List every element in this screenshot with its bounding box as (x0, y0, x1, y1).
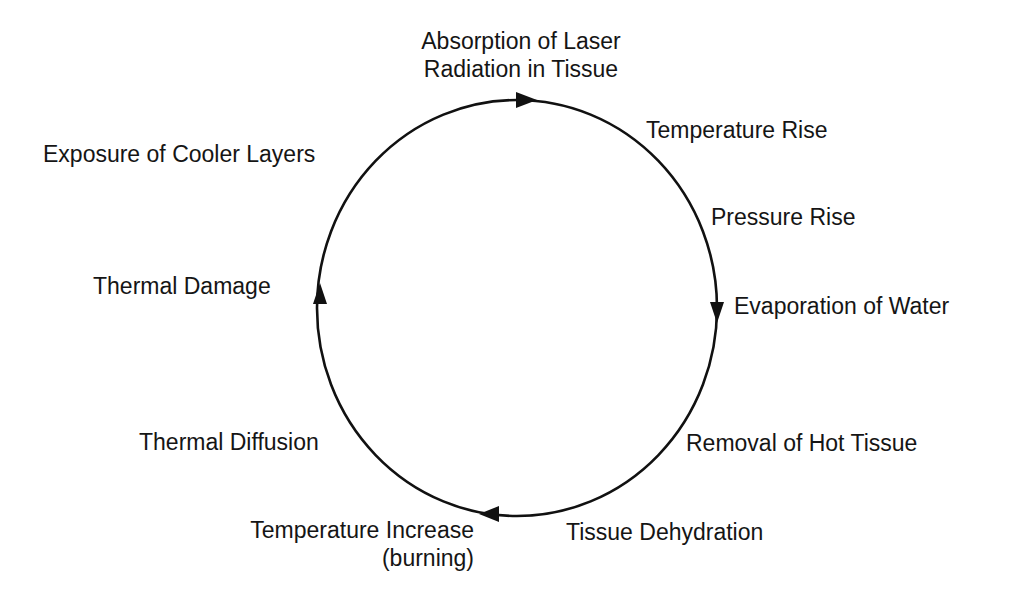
arrow-right-icon (516, 92, 537, 108)
label-removal: Removal of Hot Tissue (686, 429, 917, 457)
label-temp-increase-line2: (burning) (200, 544, 474, 572)
label-temperature-rise: Temperature Rise (646, 116, 828, 144)
arrow-left-icon (479, 506, 499, 522)
arrow-down-icon (710, 302, 724, 323)
label-temp-increase-line1: Temperature Increase (200, 516, 474, 544)
label-thermal-diffusion: Thermal Diffusion (139, 428, 319, 456)
label-absorption: Absorption of Laser Radiation in Tissue (400, 27, 642, 83)
label-temp-increase: Temperature Increase (burning) (200, 516, 474, 572)
cycle-circle (317, 100, 717, 516)
label-absorption-line1: Absorption of Laser (400, 27, 642, 55)
label-pressure-rise: Pressure Rise (711, 203, 855, 231)
label-thermal-damage: Thermal Damage (93, 272, 271, 300)
arrow-up-icon (313, 283, 327, 304)
label-exposure: Exposure of Cooler Layers (43, 140, 315, 168)
label-evaporation: Evaporation of Water (734, 292, 949, 320)
label-dehydration: Tissue Dehydration (566, 518, 763, 546)
label-absorption-line2: Radiation in Tissue (400, 55, 642, 83)
